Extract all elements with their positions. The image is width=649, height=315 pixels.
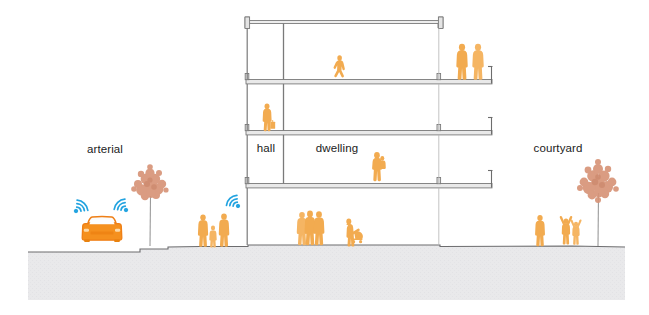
figure-street-child xyxy=(209,226,216,248)
figure-street-adult-2 xyxy=(219,213,230,246)
figure-balcony-b xyxy=(472,44,483,80)
wifi-icon-left xyxy=(74,200,88,213)
ground-terrain xyxy=(28,245,625,300)
label-dwelling: dwelling xyxy=(316,142,358,154)
figure-courtyard-standing xyxy=(535,215,545,246)
label-arterial: arterial xyxy=(87,143,123,155)
level-3-slab xyxy=(245,67,492,84)
wifi-icon-right xyxy=(114,199,128,212)
figure-dwelling-walking xyxy=(334,55,345,77)
car-front-view xyxy=(82,216,122,242)
figure-dwelling-parent-child xyxy=(372,152,386,181)
building-section-svg: arterial hall dwelling courtyard xyxy=(0,0,649,315)
figure-lobby-adult-3 xyxy=(314,211,325,245)
level-1-slab xyxy=(245,171,492,188)
roof-slab xyxy=(245,17,443,29)
label-hall: hall xyxy=(257,142,275,154)
figure-courtyard-arms-up-2 xyxy=(570,219,581,244)
diagram-canvas: arterial hall dwelling courtyard xyxy=(0,0,649,315)
figure-balcony-a xyxy=(456,44,467,80)
wifi-icon-entry xyxy=(226,195,239,207)
figure-street-adult-1 xyxy=(198,214,208,246)
street-tree xyxy=(131,164,168,246)
courtyard-tree xyxy=(577,159,619,246)
label-courtyard: courtyard xyxy=(534,142,583,154)
figure-lobby-stroller xyxy=(346,219,363,247)
figure-hall-suitcase xyxy=(263,103,276,131)
building-structure xyxy=(245,17,493,245)
level-2-slab xyxy=(245,118,492,135)
